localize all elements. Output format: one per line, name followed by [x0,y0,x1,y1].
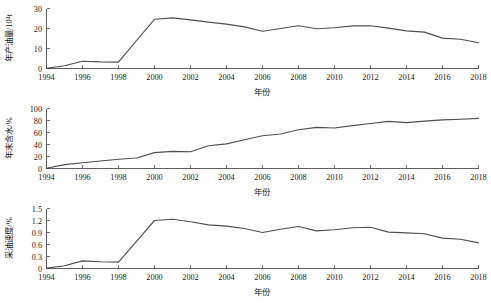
x-tick-label: 2004 [218,273,234,282]
x-tick-label: 2008 [290,73,306,82]
x-tick-label: 2010 [326,73,342,82]
axes-2 [47,209,479,269]
x-tick-label: 2012 [362,173,378,182]
x-ticks-0 [47,65,479,68]
y-tick-label: 0.3 [32,253,42,262]
x-tick-label: 2016 [434,273,450,282]
x-tick-label: 2006 [254,173,270,182]
x-tick-label: 2010 [326,173,342,182]
y-tick-label: 80 [34,117,42,126]
x-tick-label: 2000 [146,273,162,282]
x-tick-label: 2000 [146,73,162,82]
y-axis-label-2: 采油速度/% [4,217,14,258]
x-axis-label-0: 年份 [254,87,271,97]
chart-svg-1: 020406080100 199419961998200020022004200… [0,100,491,201]
y-axis-label-1: 年末含水/% [4,117,14,158]
chart-panel-oil-recovery-rate: 00.30.60.91.21.5 19941996199820002002200… [0,200,491,301]
axis-lines-0 [47,9,479,69]
x-tick-label: 1994 [38,73,54,82]
x-tick-label: 2004 [218,73,234,82]
x-ticklabels-0: 1994199619982000200220042006200820102012… [38,73,486,82]
x-ticks-2 [47,265,479,268]
y-tick-label: 20 [34,25,42,34]
chart-svg-0: 0102030 19941996199820002002200420062008… [0,0,491,101]
figure-container: 0102030 19941996199820002002200420062008… [0,0,491,304]
x-tick-label: 2014 [398,273,414,282]
x-tick-label: 2002 [182,73,198,82]
data-line-0 [47,18,479,68]
x-ticklabels-1: 1994199619982000200220042006200820102012… [38,173,486,182]
x-tick-label: 2016 [434,173,450,182]
y-tick-label: 20 [34,153,42,162]
y-ticklabels-2: 00.30.60.91.21.5 [32,205,42,274]
x-ticks-1 [47,165,479,168]
y-tick-label: 0.9 [32,229,42,238]
x-tick-label: 1998 [110,173,126,182]
x-tick-label: 2004 [218,173,234,182]
data-line-1 [47,118,479,168]
y-ticks-0 [47,9,50,69]
x-ticklabels-2: 1994199619982000200220042006200820102012… [38,273,486,282]
y-tick-label: 1.5 [32,205,42,214]
y-tick-label: 30 [34,5,42,14]
x-tick-label: 2012 [362,73,378,82]
x-tick-label: 2016 [434,73,450,82]
x-tick-label: 2018 [470,273,486,282]
x-tick-label: 1994 [38,273,54,282]
x-tick-label: 2006 [254,73,270,82]
y-tick-label: 100 [30,105,42,114]
y-tick-label: 40 [34,141,42,150]
x-tick-label: 2002 [182,273,198,282]
y-tick-label: 60 [34,129,42,138]
axes-0 [47,9,479,69]
x-tick-label: 1998 [110,73,126,82]
y-ticks-2 [47,209,50,269]
axis-lines-2 [47,209,479,269]
x-tick-label: 2018 [470,73,486,82]
x-tick-label: 1996 [74,173,90,182]
x-tick-label: 2008 [290,173,306,182]
x-axis-label-2: 年份 [254,287,271,297]
x-tick-label: 2000 [146,173,162,182]
x-tick-label: 2002 [182,173,198,182]
y-tick-label: 10 [34,45,42,54]
y-ticklabels-0: 0102030 [34,5,42,74]
data-line-2 [47,219,479,268]
y-axis-label-0: 年产油量/10⁴t [4,13,14,62]
x-tick-label: 1998 [110,273,126,282]
x-tick-label: 1996 [74,273,90,282]
y-tick-label: 1.2 [32,217,42,226]
x-tick-label: 2014 [398,173,414,182]
x-tick-label: 1994 [38,173,54,182]
x-tick-label: 2006 [254,273,270,282]
chart-panel-annual-oil-production: 0102030 19941996199820002002200420062008… [0,0,491,101]
x-axis-label-1: 年份 [254,187,271,197]
y-ticklabels-1: 020406080100 [30,105,42,174]
y-tick-label: 0.6 [32,241,42,250]
x-tick-label: 2012 [362,273,378,282]
x-tick-label: 2018 [470,173,486,182]
x-tick-label: 2014 [398,73,414,82]
x-tick-label: 2008 [290,273,306,282]
x-tick-label: 1996 [74,73,90,82]
chart-svg-2: 00.30.60.91.21.5 19941996199820002002200… [0,200,491,301]
x-tick-label: 2010 [326,273,342,282]
y-ticks-1 [47,109,50,169]
chart-panel-year-end-water-cut: 020406080100 199419961998200020022004200… [0,100,491,201]
